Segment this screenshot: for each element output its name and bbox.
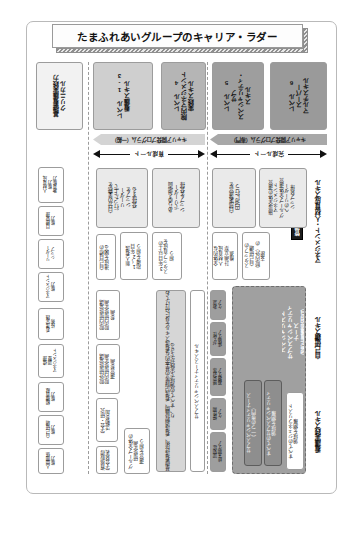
specialty-cell-3-text: 慢性期 ケア [213,408,223,420]
specialty-cell-1: がん性 疼痛ケア [210,322,226,356]
diagram-page: たまふれあいグループのキャリア・ラダー 基礎看護実践力 クリニカル レベル 1-… [0,0,361,540]
left-label-8: 自己研鑽 能力 [38,415,64,445]
left-label-1: 人材育成 能力 教育能力 [38,167,64,203]
mgmt-cell-4: 施設全体の運営 マネジメント グループ全体運営 へのリーダー シップ発揮 [259,168,307,228]
title-shadow-bottom [56,48,307,53]
left-label-6: 倫理 調整 マネジメント [38,344,64,378]
self-cell-4: 学会・研究 活動参加 [96,398,118,442]
self-cell-2-text: 院内研修受講 院内研修企画 参画 [100,300,117,330]
mgmt-cell-3: 自部署運営を 円滑に行う [212,168,256,228]
mgmt-sub-1-text: 新人看護 1～2年目 指導を担う [126,244,143,269]
specialty-cell-4-text: 認知症 終末期ケア [213,442,223,462]
self-cell-1-text: 自己目標の 達成を図る [100,245,111,270]
mgmt-cell-4-text: 施設全体の運営 マネジメント グループ全体運営 へのリーダー シップ発揮 [269,178,297,218]
mgmt-cell-1-text: 自分の業務を 行った上で リーダー シップを 発揮する [107,183,138,213]
level-label-2: レベル 4 院内マネジメント 実践スキル [173,72,195,120]
mgmt-sub-1: 新人看護 1～2年目 指導を担う [120,232,148,280]
mgmt-cell-3-text: 自部署運営を 円滑に行う [228,183,240,213]
specialist-item-all-text: すべてのサブスペシャリティ 領域を網羅 [267,391,278,456]
separator-1 [88,62,89,474]
specialty-cell-0: 救急 ケア [210,290,226,320]
left-label-7: 組織貢献 能力 [38,382,64,412]
mgmt-sub-2-text: 3年目以上の スタッフ育成を 担う [159,239,176,274]
group-label-self: 自己研鑽スキル [310,292,325,384]
specialty-cell-3: 慢性期 ケア [210,398,226,430]
specialist-title-text: スペシャリスト サブスペシャリティ ナース （認定看護師相当） [282,305,304,359]
specialty-cell-2: 感染対策 褥瘡ケア [210,358,226,396]
level-box-4: レベル 6 スーパー マルチスキル [270,62,327,130]
band-general-label: キャリア開発プログラム（一般） [112,136,187,144]
level-label-0: 基礎看護実践力 クリニカル [52,75,67,117]
group-label-self-text: 自己研鑽スキル [313,317,322,359]
specialist-item-one-text: サブスペシャリティナース （一つの専門） [247,393,258,453]
specialty-cell-2-text: 感染対策 褥瘡ケア [213,369,223,385]
generalist-item-text: すべてのジェネラリスト 領域を網羅 [289,404,300,459]
self-cell-1: 自己目標の 達成を図る [96,234,116,280]
left-label-2: 目標管理 能力 [38,206,64,236]
specialist-item-all: すべてのサブスペシャリティ 領域を網羅 [264,380,282,466]
level-label-1: レベル 1-3 看護スキル [116,73,131,119]
left-label-3: リーダー シップ [38,239,64,269]
specialist-title: スペシャリスト サブスペシャリティ ナース （認定看護師相当） [282,292,304,372]
arrow-development: 育成ルート [93,148,205,160]
left-label-7-text: 組織貢献 能力 [46,389,56,405]
specialist-item-one: サブスペシャリティナース （一つの専門） [244,380,262,466]
level-label-3: レベル 5 サブ スペシャリティ・ スキル [223,72,252,120]
arrow-completion-head-left [210,150,217,158]
self-cell-6-text: グループ全体の 研修企画 運営を担う [129,434,146,469]
left-label-4: マネジメント 能力 [38,272,64,302]
band-specialty: キャリア開発プログラム（専門） [210,134,327,145]
left-label-9: 人間関係 能力 [38,448,64,474]
arrow-completion: 完成ルート [210,148,327,160]
level-box-1: レベル 1-3 看護スキル [93,62,153,130]
page-title: たまふれあいグループのキャリア・ラダー [52,24,303,48]
mgmt-sub-4: スタッフの 自己研鑽 （院内外）の 支援 [242,232,270,280]
left-label-2-text: 目標管理 能力 [46,213,56,229]
mgmt-sub-3-text: 全体的な 人材育成 計画立案 推進 [214,246,237,266]
left-label-4-text: マネジメント 能力 [46,275,56,299]
band-general: キャリア開発プログラム（一般） [93,134,205,145]
arrow-completion-label: 完成ルート [250,150,288,158]
self-cell-3-text: 院外研修受講 院内研修企画 運営参画 [100,354,117,384]
band-specialty-label: キャリア開発プログラム（専門） [231,136,306,144]
arrow-development-label: 育成ルート [130,150,168,158]
mgmt-cell-2-text: あらゆる場面 でリーダー シップを発揮 [167,183,185,213]
left-label-8-text: 自己研鑽 能力 [46,422,56,438]
self-cell-4-text: 学会・研究 活動参加 [101,408,112,433]
self-cell-2: 院内研修受講 院内研修企画 参画 [96,290,120,340]
nursing-basic-text: 基礎看護技術、看護過程展開、看護記録等の基本的な看護スキルを身に付けており、すべ… [165,291,177,471]
group-label-management: マネジメント・人材育成スキル [310,163,325,281]
left-label-5-text: 看護実践 技術 [46,316,56,332]
title-shadow-right [303,28,308,53]
mgmt-sub-4-text: スタッフの 自己研鑽 （院内外）の 支援 [245,241,268,271]
left-label-3-text: リーダー シップ [46,246,56,262]
self-cell-5: 資格取得 学会発表 [96,446,118,474]
level-label-4: レベル 6 スーパー マルチスキル [288,78,310,114]
arrow-completion-head-right [320,150,327,158]
level-box-0: 基礎看護実践力 クリニカル [36,62,83,130]
page-title-text: たまふれあいグループのキャリア・ラダー [77,29,277,44]
mgmt-cell-2: あらゆる場面 でリーダー シップを発揮 [152,168,200,228]
nursing-sub-label: サブスペシャリティナーススキル [190,290,205,472]
specialty-cell-0-text: 救急 ケア [213,301,223,309]
generalist-item: すべてのジェネラリスト 領域を網羅 [286,392,304,470]
left-label-6-text: 倫理 調整 マネジメント [43,349,58,373]
left-label-1-text: 人材育成 能力 教育能力 [43,177,58,193]
group-label-management-text: マネジメント・人材育成スキル [313,180,322,264]
nursing-basic-bar: 基礎看護技術、看護過程展開、看護記録等の基本的な看護スキルを身に付けており、すべ… [156,290,186,472]
specialty-cell-4: 認知症 終末期ケア [210,432,226,472]
left-label-9-text: 人間関係 能力 [46,453,56,469]
mgmt-sub-3: 全体的な 人材育成 計画立案 推進 [212,232,238,280]
self-cell-3: 院外研修受講 院内研修企画 運営参画 [96,344,120,394]
group-label-nursing: 看護実践スキル [310,392,325,472]
level-box-2: レベル 4 院内マネジメント 実践スキル [161,62,206,130]
mgmt-cell-1: 自分の業務を 行った上で リーダー シップを 発揮する [96,168,148,228]
mgmt-sub-2: 3年目以上の スタッフ育成を 担う [152,232,182,280]
separator-2 [207,62,208,474]
specialty-cell-1-text: がん性 疼痛ケア [213,331,223,347]
level-box-3: レベル 5 サブ スペシャリティ・ スキル [212,62,264,130]
arrow-development-head-left [93,150,100,158]
group-label-nursing-text: 看護実践スキル [313,411,322,453]
nursing-sub-label-text: サブスペシャリティナーススキル [195,344,201,419]
arrow-development-head-right [198,150,205,158]
